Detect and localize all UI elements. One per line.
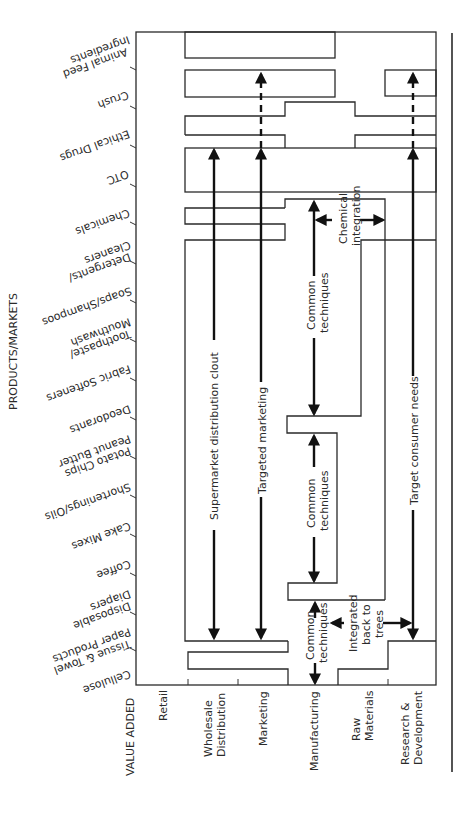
stage-raw-1: Raw xyxy=(350,718,363,741)
axis-title-products: PRODUCTS/MARKETS xyxy=(7,293,20,410)
shape-otc xyxy=(185,148,436,192)
stage-rd-1: Research & xyxy=(399,702,412,765)
shape-ethical-drugs-left xyxy=(185,102,436,135)
shape-chemicals xyxy=(285,199,385,600)
label-common-2a: Common xyxy=(305,478,318,528)
product-cake-mixes: Cake Mixes xyxy=(70,519,133,552)
label-chem-a: Chemical xyxy=(337,193,350,244)
stage-marketing: Marketing xyxy=(257,691,270,746)
axis-title-value-added: VALUE ADDED xyxy=(124,698,137,776)
label-integrated-c: trees xyxy=(373,610,386,638)
product-deodorants: Deodorants xyxy=(68,402,133,436)
label-common-1a: Common xyxy=(305,280,318,330)
diagram-frame xyxy=(136,32,436,685)
product-ethical-drugs: Ethical Drugs xyxy=(58,127,132,164)
label-common-2b: techniques xyxy=(318,470,331,531)
stage-raw-2: Materials xyxy=(363,690,376,741)
value-chain-diagram: Supermarket distribution clout Targeted … xyxy=(0,0,471,814)
label-integrated-a: Integrated xyxy=(347,594,360,652)
product-crush: Crush xyxy=(96,88,130,111)
shape-cellulose xyxy=(188,641,288,685)
label-targeted-marketing: Targeted marketing xyxy=(256,387,269,495)
product-labels: Animal Feed Ingredients Crush Ethical Dr… xyxy=(40,33,133,696)
label-supermarket: Supermarket distribution clout xyxy=(208,351,221,520)
label-chem-b: integration xyxy=(350,186,363,246)
label-common-3b: techniques xyxy=(317,602,330,663)
stage-wholesale-1: Wholesale xyxy=(202,700,215,757)
label-integrated-b: back to xyxy=(360,604,373,645)
product-otc: OTC xyxy=(105,167,131,187)
stage-manufacturing: Manufacturing xyxy=(308,691,321,771)
shape-detergents xyxy=(185,208,288,641)
label-common-1b: techniques xyxy=(318,272,331,333)
product-coffee: Coffee xyxy=(94,557,132,581)
product-chemicals: Chemicals xyxy=(73,206,131,238)
stage-wholesale-2: Distribution xyxy=(215,693,228,757)
product-cellulose: Cellulose xyxy=(81,667,132,696)
shape-animal-feed xyxy=(185,32,335,58)
stage-labels: Retail Wholesale Distribution Marketing … xyxy=(157,690,425,771)
shape-ethical-drugs-bottom xyxy=(185,135,436,148)
label-common-3a: Common xyxy=(304,610,317,660)
product-fabric-softeners: Fabric Softeners xyxy=(44,362,132,405)
stage-rd-2: Development xyxy=(412,690,425,765)
shape-crush-rd xyxy=(385,70,436,96)
stage-retail: Retail xyxy=(157,690,170,721)
label-target-consumer: Target consumer needs xyxy=(408,376,421,506)
product-shortenings: Shortenings/Oils xyxy=(43,480,132,523)
